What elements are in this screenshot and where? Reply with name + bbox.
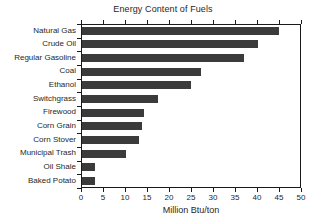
x-axis-tick-top [301, 20, 302, 24]
y-axis-tick-label: Ethanol [49, 78, 76, 92]
bar [82, 40, 258, 48]
x-axis-tick-label: 10 [121, 193, 130, 202]
bar-row [82, 51, 301, 65]
x-axis-tick [257, 188, 258, 192]
y-axis-tick-label: Oil Shale [44, 160, 76, 174]
bar-row [82, 174, 301, 188]
x-axis-tick-label: 25 [187, 193, 196, 202]
bar-row [82, 106, 301, 120]
x-axis-tick-label: 30 [209, 193, 218, 202]
bar-row [82, 161, 301, 175]
x-axis-tick [169, 188, 170, 192]
x-axis-tick-top [81, 20, 82, 24]
bar [82, 122, 142, 130]
bar [82, 81, 191, 89]
bar-row [82, 24, 301, 38]
bar [82, 150, 126, 158]
x-axis-tick [125, 188, 126, 192]
bar [82, 68, 201, 76]
y-axis-label-row: Crude Oil [0, 38, 81, 52]
y-axis-tick [77, 79, 81, 80]
x-axis-tick-label: 5 [101, 193, 105, 202]
y-axis-label-row: Corn Stover [0, 133, 81, 147]
chart-title: Energy Content of Fuels [0, 4, 326, 14]
y-axis-label-row: Municipal Trash [0, 147, 81, 161]
bars-group [82, 24, 301, 188]
bar-chart: Energy Content of Fuels Natural GasCrude… [0, 0, 326, 224]
y-axis-tick-label: Coal [60, 64, 76, 78]
x-axis-tick-top [147, 20, 148, 24]
bar [82, 163, 95, 171]
x-axis-tick [103, 188, 104, 192]
x-axis-tick [301, 188, 302, 192]
y-axis-tick-label: Baked Potato [28, 174, 76, 188]
y-axis-tick-label: Municipal Trash [20, 146, 76, 160]
x-axis-tick-label: 35 [231, 193, 240, 202]
x-axis-tick [279, 188, 280, 192]
y-axis-tick [77, 161, 81, 162]
x-axis-tick-top [169, 20, 170, 24]
y-axis-label-row: Switchgrass [0, 92, 81, 106]
bar-row [82, 79, 301, 93]
y-axis-tick-label: Switchgrass [33, 92, 76, 106]
y-axis-tick [77, 120, 81, 121]
y-axis-tick-label: Corn Grain [37, 119, 76, 133]
y-axis-label-row: Regular Gasoline [0, 51, 81, 65]
y-axis-tick [77, 188, 81, 189]
y-axis-tick [77, 65, 81, 66]
x-axis-tick-label: 15 [143, 193, 152, 202]
x-axis-tick-top [257, 20, 258, 24]
y-axis-tick-label: Regular Gasoline [14, 51, 76, 65]
y-axis-tick [77, 92, 81, 93]
y-axis-tick-label: Firewood [43, 105, 76, 119]
y-axis-label-row: Ethanol [0, 79, 81, 93]
x-axis-title: Million Btu/ton [81, 205, 301, 215]
x-axis-tick-top [279, 20, 280, 24]
bar [82, 54, 244, 62]
y-axis-tick [77, 38, 81, 39]
y-axis-tick [77, 106, 81, 107]
y-axis-tick [77, 24, 81, 25]
bar-row [82, 147, 301, 161]
x-axis-tick [235, 188, 236, 192]
bar-row [82, 133, 301, 147]
y-axis-label-row: Coal [0, 65, 81, 79]
y-axis-label-row: Oil Shale [0, 161, 81, 175]
x-axis-tick [213, 188, 214, 192]
bar [82, 95, 158, 103]
y-axis-tick-label: Corn Stover [33, 133, 76, 147]
bar [82, 27, 279, 35]
bar-row [82, 120, 301, 134]
y-axis-label-row: Baked Potato [0, 174, 81, 188]
y-axis-label-row: Firewood [0, 106, 81, 120]
y-axis: Natural GasCrude OilRegular GasolineCoal… [0, 24, 81, 188]
y-axis-tick [77, 147, 81, 148]
bar [82, 177, 95, 185]
x-axis-tick [81, 188, 82, 192]
y-axis-tick-label: Natural Gas [33, 24, 76, 38]
y-axis-tick-label: Crude Oil [42, 37, 76, 51]
x-axis-tick-top [235, 20, 236, 24]
y-axis-label-row: Corn Grain [0, 120, 81, 134]
x-axis-tick-label: 20 [165, 193, 174, 202]
y-axis-tick [77, 51, 81, 52]
x-axis-tick-label: 50 [297, 193, 306, 202]
x-axis-tick-label: 45 [275, 193, 284, 202]
bar-row [82, 92, 301, 106]
y-axis-label-row: Natural Gas [0, 24, 81, 38]
x-axis-tick-top [125, 20, 126, 24]
x-axis-tick-top [103, 20, 104, 24]
x-axis-tick [147, 188, 148, 192]
x-axis-tick-label: 40 [253, 193, 262, 202]
bar [82, 109, 144, 117]
x-axis-tick [191, 188, 192, 192]
y-axis-tick [77, 174, 81, 175]
bar [82, 136, 139, 144]
x-axis-tick-top [213, 20, 214, 24]
y-axis-tick [77, 133, 81, 134]
x-axis-tick-top [191, 20, 192, 24]
bar-row [82, 38, 301, 52]
x-axis-tick-label: 0 [79, 193, 83, 202]
bar-row [82, 65, 301, 79]
